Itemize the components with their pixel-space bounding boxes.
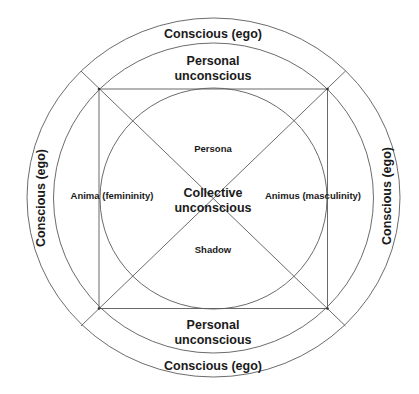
corner-dot-bl bbox=[98, 307, 101, 310]
label-animus: Animus (masculinity) bbox=[265, 190, 361, 201]
label-collective-1: Collective bbox=[183, 186, 242, 200]
label-collective-2: unconscious bbox=[174, 201, 251, 215]
corner-dot-tl bbox=[98, 88, 101, 91]
label-personal-top-1: Personal bbox=[187, 54, 240, 68]
label-persona: Persona bbox=[194, 143, 232, 154]
psyche-diagram: Conscious (ego) Conscious (ego) Consciou… bbox=[0, 0, 419, 394]
corner-dot-tr bbox=[326, 88, 329, 91]
label-personal-bottom-1: Personal bbox=[187, 318, 240, 332]
label-conscious-bottom: Conscious (ego) bbox=[164, 359, 262, 373]
corner-dot-br bbox=[326, 307, 329, 310]
label-conscious-left: Conscious (ego) bbox=[34, 149, 48, 247]
label-anima: Anima (femininity) bbox=[71, 190, 154, 201]
label-personal-bottom-2: unconscious bbox=[174, 333, 251, 347]
label-conscious-top: Conscious (ego) bbox=[164, 27, 262, 41]
label-shadow: Shadow bbox=[195, 244, 232, 255]
label-personal-top-2: unconscious bbox=[174, 69, 251, 83]
label-conscious-right: Conscious (ego) bbox=[380, 147, 394, 245]
